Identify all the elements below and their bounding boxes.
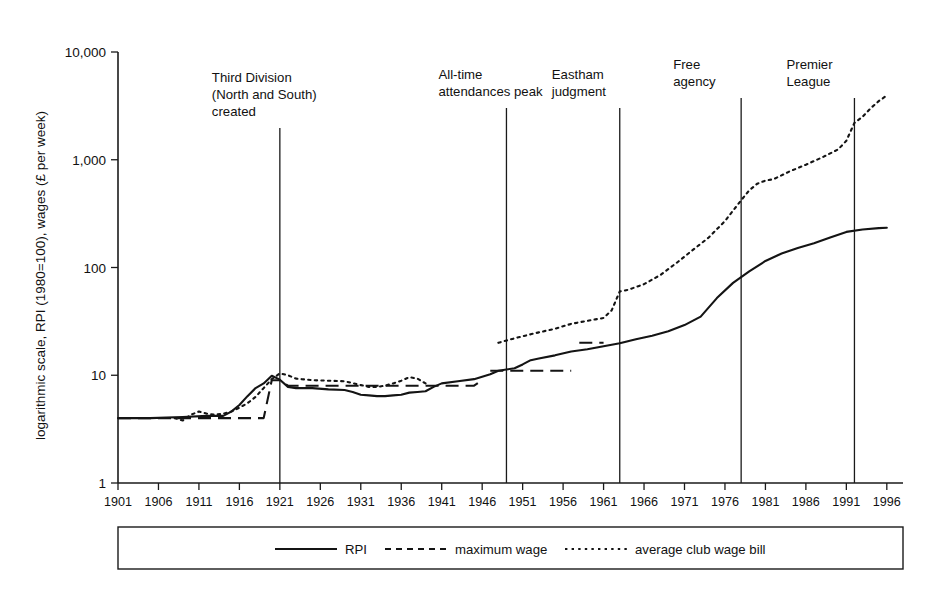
- legend-label: RPI: [345, 542, 367, 557]
- legend-label: maximum wage: [455, 542, 547, 557]
- x-tick-label: 1946: [468, 495, 496, 509]
- x-tick-label: 1996: [873, 495, 901, 509]
- y-axis-ticks: 10,0001,000100101: [65, 45, 118, 491]
- x-tick-label: 1901: [104, 495, 132, 509]
- x-tick-label: 1926: [306, 495, 334, 509]
- y-axis-label: logarithmic scale, RPI (1980=100), wages…: [33, 111, 48, 440]
- x-tick-label: 1916: [225, 495, 253, 509]
- event-annotation-text: Free: [673, 57, 700, 72]
- event-annotation-text: agency: [673, 74, 716, 89]
- legend-label: average club wage bill: [635, 542, 766, 557]
- x-tick-label: 1991: [832, 495, 860, 509]
- x-tick-label: 1951: [509, 495, 537, 509]
- y-axis-label-text: logarithmic scale, RPI (1980=100), wages…: [33, 111, 48, 440]
- x-axis-ticks: 1901190619111916192119261931193619411946…: [104, 483, 901, 509]
- series-line-average-club-wage-bill: [498, 95, 886, 342]
- x-tick-label: 1921: [266, 495, 294, 509]
- y-tick-label: 100: [83, 261, 106, 276]
- chart-figure: logarithmic scale, RPI (1980=100), wages…: [0, 0, 938, 601]
- event-annotation-text: judgment: [551, 84, 607, 99]
- x-tick-label: 1936: [387, 495, 415, 509]
- x-tick-label: 1971: [670, 495, 698, 509]
- y-tick-label: 10: [91, 368, 106, 383]
- x-tick-label: 1931: [347, 495, 375, 509]
- event-marker-lines: [280, 98, 855, 483]
- series-line-rpi: [118, 228, 887, 418]
- event-annotations: Third Division(North and South)createdAl…: [212, 57, 833, 119]
- y-tick-label: 1: [98, 476, 106, 491]
- x-tick-label: 1986: [792, 495, 820, 509]
- event-annotation-text: Eastham: [552, 67, 604, 82]
- event-annotation-text: Third Division: [212, 70, 292, 85]
- wage-history-line-chart: logarithmic scale, RPI (1980=100), wages…: [0, 0, 938, 601]
- series-line-maximum-wage: [118, 380, 482, 418]
- x-tick-label: 1981: [751, 495, 779, 509]
- x-tick-label: 1961: [590, 495, 618, 509]
- event-annotation-text: League: [786, 74, 830, 89]
- legend: RPImaximum wageaverage club wage bill: [275, 542, 766, 557]
- y-tick-label: 1,000: [72, 153, 106, 168]
- x-tick-label: 1911: [185, 495, 212, 509]
- x-tick-label: 1976: [711, 495, 739, 509]
- event-annotation-text: Premier: [786, 57, 833, 72]
- x-tick-label: 1966: [630, 495, 658, 509]
- event-annotation-text: created: [212, 104, 256, 119]
- y-tick-label: 10,000: [65, 45, 106, 60]
- data-series: [118, 95, 887, 420]
- series-line-average-club-wage-bill: [175, 373, 426, 420]
- event-annotation-text: (North and South): [212, 87, 317, 102]
- x-tick-label: 1906: [144, 495, 172, 509]
- event-annotation-text: All-time: [438, 67, 482, 82]
- x-tick-label: 1956: [549, 495, 577, 509]
- event-annotation-text: attendances peak: [438, 84, 543, 99]
- x-tick-label: 1941: [428, 495, 456, 509]
